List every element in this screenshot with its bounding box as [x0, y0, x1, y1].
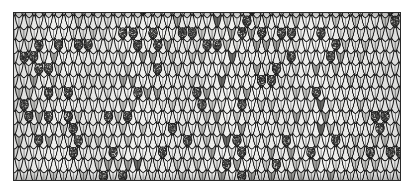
- knit-fabric-canvas: [14, 13, 400, 180]
- knitting-swatch-figure: [0, 0, 413, 192]
- fabric-panel: [13, 12, 401, 181]
